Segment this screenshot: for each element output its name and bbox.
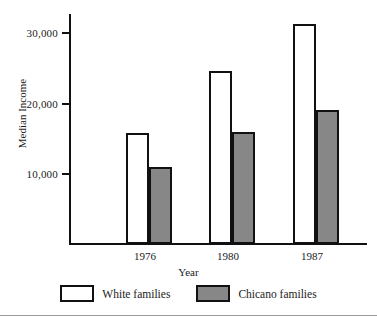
chart-legend: White families Chicano families [0, 285, 377, 302]
y-tick-label-20000: 20,000 [2, 99, 58, 110]
x-label-1976: 1976 [115, 250, 175, 262]
chart-figure: Median Income 30,000 20,000 10,000 1976 … [0, 0, 377, 323]
bar-1976-white [126, 133, 149, 244]
bar-1980-chicano [232, 132, 255, 244]
legend-label-white-families: White families [102, 288, 170, 300]
y-tick-label-20000-wrap: 20,000 [0, 99, 58, 110]
page-bottom-rule [0, 315, 377, 316]
x-label-1987: 1987 [282, 250, 342, 262]
bar-1976-chicano [149, 167, 172, 244]
y-axis-line [69, 14, 71, 245]
legend-swatch-icon-chicano [196, 285, 230, 302]
y-tick-30000 [62, 32, 70, 34]
y-tick-10000 [62, 173, 70, 175]
legend-label-chicano-families: Chicano families [238, 288, 316, 300]
x-label-1980: 1980 [198, 250, 258, 262]
y-tick-label-10000: 10,000 [2, 169, 58, 180]
legend-swatch-icon-white [60, 285, 94, 302]
legend-item-chicano-families: Chicano families [196, 285, 316, 302]
y-tick-label-30000: 30,000 [2, 28, 58, 39]
bar-1980-white [209, 71, 232, 244]
y-tick-label-30000-wrap: 30,000 [0, 28, 58, 39]
y-tick-20000 [62, 103, 70, 105]
legend-item-white-families: White families [60, 285, 170, 302]
x-axis-title: Year [0, 266, 377, 278]
bar-1987-chicano [316, 110, 339, 244]
plot-area: Median Income 30,000 20,000 10,000 1976 … [0, 0, 377, 260]
y-axis-title: Median Income [17, 54, 28, 174]
bar-1987-white [293, 24, 316, 244]
y-tick-label-10000-wrap: 10,000 [0, 169, 58, 180]
